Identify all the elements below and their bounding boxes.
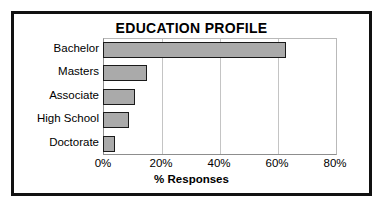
x-axis-tick-labels: 0% 20% 40% 60% 80%	[14, 157, 369, 173]
x-tick-label-80: 80%	[313, 157, 357, 169]
bar-row-associate	[104, 86, 336, 109]
plot-area	[103, 38, 337, 155]
bar-row-bachelor	[104, 39, 336, 62]
x-tick-label-20: 20%	[139, 157, 183, 169]
x-tick-label-60: 60%	[255, 157, 299, 169]
x-tick-label-40: 40%	[197, 157, 241, 169]
bar-high-school[interactable]	[103, 112, 129, 128]
y-tick-label-doctorate: Doctorate	[0, 136, 99, 148]
y-tick-label-masters: Masters	[0, 65, 99, 77]
chart-figure: EDUCATION PROFILE Bachelor Masters Assoc…	[11, 11, 372, 196]
bar-row-high-school	[104, 109, 336, 132]
y-tick-label-bachelor: Bachelor	[0, 42, 99, 54]
bar-doctorate[interactable]	[103, 136, 115, 152]
bar-series	[104, 39, 336, 154]
y-axis-category-labels: Bachelor Masters Associate High School D…	[14, 38, 99, 155]
chart-title: EDUCATION PROFILE	[14, 20, 369, 36]
y-tick-label-associate: Associate	[0, 89, 99, 101]
x-axis-title: % Responses	[14, 173, 369, 185]
bar-masters[interactable]	[103, 65, 147, 81]
bar-associate[interactable]	[103, 89, 135, 105]
bar-row-doctorate	[104, 133, 336, 156]
y-tick-label-high-school: High School	[0, 112, 99, 124]
x-tick-label-0: 0%	[81, 157, 125, 169]
bar-bachelor[interactable]	[103, 42, 286, 58]
bar-row-masters	[104, 62, 336, 85]
